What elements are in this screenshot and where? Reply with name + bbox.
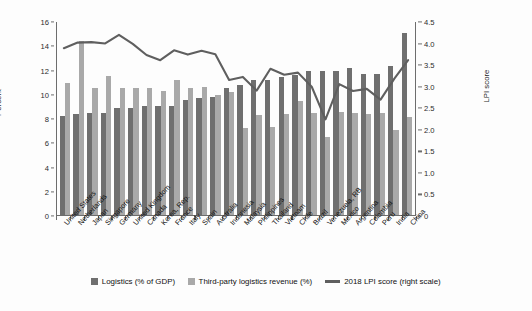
- bar-third-party-revenue: [215, 95, 220, 215]
- bar-group: [99, 22, 113, 215]
- bar-group: [236, 22, 250, 215]
- bar-group: [250, 22, 264, 215]
- bar-group: [263, 22, 277, 215]
- bar-group: [140, 22, 154, 215]
- left-axis-tick-mark: [51, 215, 55, 216]
- left-axis-tick-mark: [51, 70, 55, 71]
- plot-area: [56, 22, 416, 216]
- left-axis: 1614121086420: [20, 22, 54, 216]
- bar-third-party-revenue: [325, 137, 330, 215]
- right-axis-tick-label: 4.5: [424, 18, 435, 27]
- bar-third-party-revenue: [202, 87, 207, 215]
- right-axis-tick-label: 1.0: [424, 168, 435, 177]
- left-axis-tick-mark: [51, 191, 55, 192]
- bar-group: [58, 22, 72, 215]
- left-axis-tick-label: 2: [45, 187, 49, 196]
- bar-third-party-revenue: [79, 41, 84, 215]
- bar-third-party-revenue: [229, 92, 234, 215]
- bar-group: [72, 22, 86, 215]
- bar-group: [387, 22, 401, 215]
- x-axis-tick-mark: [56, 216, 57, 220]
- bar-third-party-revenue: [393, 130, 398, 215]
- bar-group: [85, 22, 99, 215]
- legend-item[interactable]: Logistics (% of GDP): [91, 277, 175, 286]
- bar-third-party-revenue: [106, 76, 111, 215]
- bar-group: [318, 22, 332, 215]
- left-axis-tick-label: 14: [41, 42, 49, 51]
- left-axis-tick-mark: [51, 21, 55, 22]
- bar-third-party-revenue: [380, 113, 385, 215]
- bar-group: [181, 22, 195, 215]
- right-axis-tick-mark: [418, 43, 422, 44]
- right-axis-tick-label: 2.0: [424, 125, 435, 134]
- legend-label: Logistics (% of GDP): [102, 277, 175, 286]
- bar-third-party-revenue: [298, 101, 303, 215]
- right-axis-title: LPI score: [482, 70, 491, 103]
- legend-line-swatch: [325, 280, 340, 282]
- bar-third-party-revenue: [147, 88, 152, 215]
- right-axis-tick-label: 1.5: [424, 147, 435, 156]
- right-axis-tick-label: 4.0: [424, 39, 435, 48]
- bar-group: [359, 22, 373, 215]
- left-axis-tick-label: 8: [45, 115, 49, 124]
- bar-third-party-revenue: [407, 117, 412, 215]
- bar-group: [277, 22, 291, 215]
- bar-group: [304, 22, 318, 215]
- left-axis-tick-mark: [51, 46, 55, 47]
- legend-label: 2018 LPI score (right scale): [344, 277, 441, 286]
- bar-third-party-revenue: [65, 83, 70, 215]
- right-axis: 4.54.03.53.02.52.01.51.00.50: [418, 22, 458, 216]
- right-axis-tick-mark: [418, 108, 422, 109]
- left-axis-tick-mark: [51, 94, 55, 95]
- legend-color-swatch: [188, 278, 195, 285]
- right-axis-tick-label: 3.5: [424, 61, 435, 70]
- x-axis-labels: United StatesNetherlandsJapanSingaporeGe…: [56, 221, 416, 267]
- right-axis-tick-label: 3.0: [424, 82, 435, 91]
- bar-group: [400, 22, 414, 215]
- bar-group: [195, 22, 209, 215]
- right-axis-tick-mark: [418, 172, 422, 173]
- left-axis-tick-mark: [51, 118, 55, 119]
- right-axis-tick-mark: [418, 86, 422, 87]
- right-axis-tick-label: 2.5: [424, 104, 435, 113]
- left-axis-tick-mark: [51, 143, 55, 144]
- bar-third-party-revenue: [133, 88, 138, 215]
- right-axis-tick-mark: [418, 151, 422, 152]
- legend-label: Third-party logistics revenue (%): [199, 277, 313, 286]
- bar-group: [126, 22, 140, 215]
- left-axis-title: Percent: [0, 89, 3, 116]
- bar-third-party-revenue: [311, 113, 316, 215]
- bar-group: [291, 22, 305, 215]
- right-axis-tick-mark: [418, 65, 422, 66]
- left-axis-tick-label: 6: [45, 139, 49, 148]
- legend-color-swatch: [91, 278, 98, 285]
- left-axis-tick-label: 12: [41, 66, 49, 75]
- legend-item[interactable]: 2018 LPI score (right scale): [325, 277, 441, 286]
- right-axis-tick-mark: [418, 129, 422, 130]
- right-axis-tick-mark: [418, 21, 422, 22]
- right-axis-tick-mark: [418, 194, 422, 195]
- left-axis-tick-label: 0: [45, 212, 49, 221]
- bar-group: [373, 22, 387, 215]
- bar-group: [209, 22, 223, 215]
- right-axis-tick-label: 0.5: [424, 190, 435, 199]
- bar-third-party-revenue: [174, 80, 179, 215]
- bar-group: [113, 22, 127, 215]
- left-axis-tick-mark: [51, 167, 55, 168]
- bars-layer: [57, 22, 415, 215]
- bar-group: [222, 22, 236, 215]
- left-axis-tick-label: 4: [45, 163, 49, 172]
- legend-item[interactable]: Third-party logistics revenue (%): [188, 277, 312, 286]
- lpi-logistics-chart: 1614121086420 Percent 4.54.03.53.02.52.0…: [0, 0, 532, 311]
- bar-group: [332, 22, 346, 215]
- left-axis-tick-label: 10: [41, 90, 49, 99]
- chart-legend: Logistics (% of GDP)Third-party logistic…: [0, 277, 532, 286]
- left-axis-tick-label: 16: [41, 18, 49, 27]
